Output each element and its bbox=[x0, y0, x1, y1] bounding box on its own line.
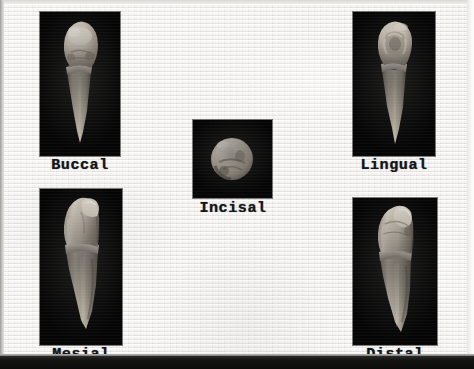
caption-incisal: Incisal bbox=[182, 201, 284, 216]
tooth-incisal-view-icon bbox=[193, 120, 272, 198]
scan-edge-top bbox=[0, 0, 474, 4]
tooth-mesial-view-icon bbox=[40, 189, 122, 345]
scan-edge-right bbox=[467, 0, 474, 369]
caption-lingual: Lingual bbox=[340, 158, 448, 173]
tooth-lingual-view-icon bbox=[353, 12, 435, 156]
photo-panel-lingual[interactable] bbox=[353, 12, 435, 156]
caption-distal: Distal bbox=[342, 347, 448, 362]
photo-panel-mesial[interactable] bbox=[40, 189, 122, 345]
scan-edge-left bbox=[0, 0, 4, 369]
tooth-distal-view-icon bbox=[353, 198, 437, 345]
photo-panel-buccal[interactable] bbox=[40, 12, 120, 156]
photo-panel-distal[interactable] bbox=[353, 198, 437, 345]
caption-buccal: Buccal bbox=[28, 158, 132, 173]
photo-panel-incisal[interactable] bbox=[193, 120, 272, 198]
caption-mesial: Mesial bbox=[28, 347, 134, 362]
tooth-buccal-view-icon bbox=[40, 12, 120, 156]
tooth-views-plate: Buccal bbox=[0, 0, 474, 369]
